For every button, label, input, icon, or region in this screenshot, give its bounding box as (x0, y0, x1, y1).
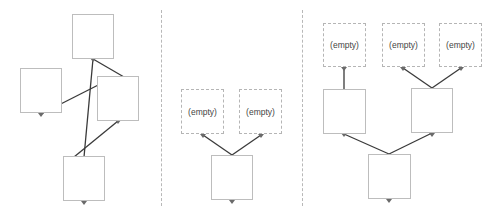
empty-label: (empty) (446, 40, 475, 50)
node-p3-empty-2[interactable]: (empty) (382, 23, 425, 67)
empty-label: (empty) (330, 40, 359, 50)
empty-label: (empty) (389, 40, 418, 50)
empty-label: (empty) (188, 107, 217, 117)
node-p1-left[interactable] (20, 68, 62, 113)
node-p3-empty-3[interactable]: (empty) (439, 23, 482, 67)
node-p3-mid-right[interactable] (411, 88, 453, 133)
node-p2-left-empty[interactable]: (empty) (181, 89, 224, 134)
node-p1-right[interactable] (97, 76, 139, 121)
node-p2-bottom[interactable] (211, 155, 253, 200)
node-p1-top[interactable] (72, 14, 114, 59)
node-p3-mid-left[interactable] (323, 89, 366, 134)
node-p3-empty-1[interactable]: (empty) (323, 23, 366, 67)
empty-label: (empty) (246, 107, 275, 117)
node-p1-bottom[interactable] (63, 156, 105, 201)
node-p2-right-empty[interactable]: (empty) (239, 89, 282, 134)
node-p3-bottom[interactable] (368, 154, 411, 199)
